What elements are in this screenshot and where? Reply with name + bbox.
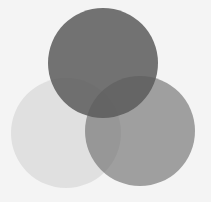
venn-diagram bbox=[0, 0, 211, 202]
venn-svg bbox=[0, 0, 211, 202]
circle-top bbox=[48, 8, 158, 118]
